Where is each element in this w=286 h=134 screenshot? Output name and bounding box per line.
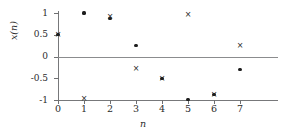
cross-marker-icon: × xyxy=(159,75,166,83)
x-tick-label: 6 xyxy=(206,104,222,114)
x-tick-label: 2 xyxy=(102,104,118,114)
y-tick-label: 1 xyxy=(42,9,48,18)
x-tick-label: 1 xyxy=(76,104,92,114)
x-tick-label: 0 xyxy=(50,104,66,114)
x-tick-label: 3 xyxy=(128,104,144,114)
x-tick-label: 5 xyxy=(180,104,196,114)
x-axis-spine xyxy=(58,100,278,101)
x-axis-title: n xyxy=(0,118,286,129)
cross-marker-icon: × xyxy=(107,13,114,21)
cross-marker-icon: × xyxy=(81,95,88,103)
data-point-layer: ×××××××× xyxy=(58,13,278,100)
scatter-plot-figure: 10.50-0.5-101234567 ×××××××× n x(n) xyxy=(0,0,286,134)
x-tick-label: 7 xyxy=(232,104,248,114)
y-tick-label: 0 xyxy=(42,52,48,61)
x-tick-label: 4 xyxy=(154,104,170,114)
y-tick-label: -0.5 xyxy=(31,74,48,83)
y-axis-title: x(n) xyxy=(8,21,19,40)
cross-marker-icon: × xyxy=(133,65,140,73)
cross-marker-icon: × xyxy=(237,42,244,50)
y-tick-label: 0.5 xyxy=(34,30,48,39)
cross-marker-icon: × xyxy=(185,11,192,19)
cross-marker-icon: × xyxy=(55,31,62,39)
cross-marker-icon: × xyxy=(211,91,218,99)
y-tick-label: -1 xyxy=(39,96,48,105)
